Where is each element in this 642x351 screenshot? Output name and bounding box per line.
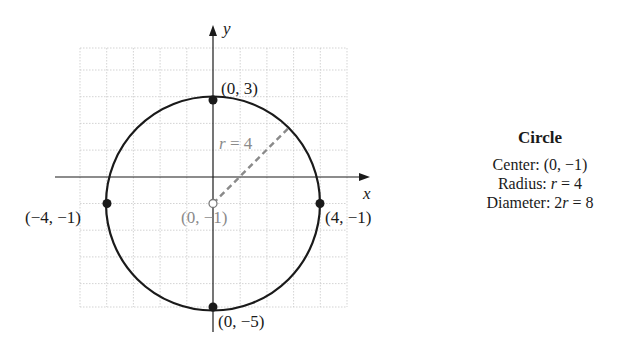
info-diameter: Diameter: 2r = 8 bbox=[450, 193, 630, 212]
point-right-marker bbox=[316, 199, 325, 208]
info-center: Center: (0, −1) bbox=[450, 155, 630, 174]
point-top-label: (0, 3) bbox=[221, 79, 258, 98]
radius-label: r = 4 bbox=[219, 134, 253, 153]
point-left-label: (−4, −1) bbox=[25, 208, 81, 227]
axes bbox=[55, 25, 370, 332]
point-bottom-marker bbox=[209, 303, 218, 312]
y-axis-arrow-icon bbox=[209, 25, 217, 36]
point-bottom-label: (0, −5) bbox=[218, 312, 264, 331]
x-axis-label: x bbox=[362, 184, 371, 203]
point-left-marker bbox=[103, 199, 112, 208]
point-right-label: (4, −1) bbox=[325, 208, 371, 227]
center-marker bbox=[209, 200, 217, 208]
point-top-marker bbox=[209, 96, 218, 105]
info-title: Circle bbox=[450, 128, 630, 147]
center-label: (0, −1) bbox=[181, 208, 227, 227]
x-axis-arrow-icon bbox=[359, 173, 370, 181]
info-radius: Radius: r = 4 bbox=[450, 174, 630, 193]
circle-info-box: Circle Center: (0, −1) Radius: r = 4 Dia… bbox=[450, 128, 630, 212]
y-axis-label: y bbox=[221, 19, 231, 38]
